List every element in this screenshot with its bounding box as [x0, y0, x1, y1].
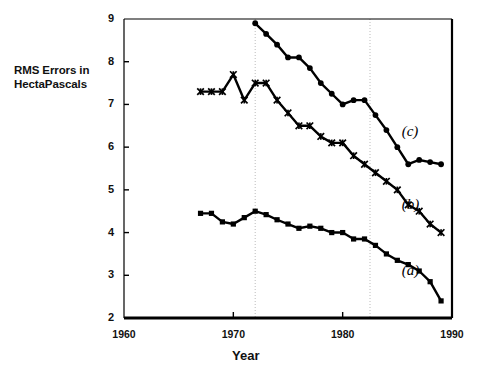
y-tick-label-3: 3 [96, 268, 114, 280]
data-point-a-1982 [362, 236, 367, 241]
y-tick-label-6: 6 [96, 140, 114, 152]
y-tick-label-8: 8 [96, 55, 114, 67]
data-point-a-1971 [242, 215, 247, 220]
curve-label-c: (c) [402, 123, 419, 140]
data-point-c-1987 [416, 157, 422, 163]
chart-figure: RMS Errors in HectaPascals Year 23456789… [0, 0, 477, 377]
data-point-a-1977 [307, 224, 312, 229]
data-point-a-1967 [198, 211, 203, 216]
data-point-a-1980 [340, 230, 345, 235]
data-point-c-1981 [351, 97, 357, 103]
curve-label-b: (b) [402, 196, 420, 213]
y-tick-label-2: 2 [96, 311, 114, 323]
data-point-c-1985 [394, 144, 400, 150]
x-tick-label-1960: 1960 [103, 328, 145, 340]
data-point-c-1983 [373, 112, 379, 118]
data-point-a-1969 [220, 219, 225, 224]
data-point-a-1983 [373, 243, 378, 248]
data-point-c-1988 [427, 159, 433, 165]
y-tick-label-9: 9 [96, 12, 114, 24]
y-tick-label-5: 5 [96, 183, 114, 195]
y-axis-label: RMS Errors in HectaPascals [14, 63, 114, 91]
data-point-a-1972 [253, 209, 258, 214]
series-line-a [201, 211, 442, 301]
data-point-c-1972 [252, 20, 258, 26]
data-point-a-1989 [438, 298, 443, 303]
y-axis-label-line2: HectaPascals [14, 78, 87, 90]
data-point-c-1976 [296, 55, 302, 61]
x-tick-label-1970: 1970 [212, 328, 254, 340]
x-tick-label-1980: 1980 [322, 328, 364, 340]
data-point-c-1980 [340, 102, 346, 108]
data-point-c-1975 [285, 55, 291, 61]
data-point-c-1977 [307, 65, 313, 71]
data-point-a-1981 [351, 236, 356, 241]
data-point-a-1976 [296, 226, 301, 231]
series-line-c [255, 23, 441, 164]
data-point-a-1988 [428, 279, 433, 284]
data-point-a-1978 [318, 226, 323, 231]
plot-area [0, 0, 477, 377]
x-axis-label: Year [232, 348, 259, 363]
data-point-a-1974 [274, 217, 279, 222]
data-point-a-1973 [264, 212, 269, 217]
data-point-c-1974 [274, 42, 280, 48]
data-point-a-1970 [231, 221, 236, 226]
data-point-a-1985 [395, 258, 400, 263]
data-point-c-1984 [384, 127, 390, 133]
data-point-a-1975 [285, 221, 290, 226]
data-point-c-1978 [318, 80, 324, 86]
data-point-a-1979 [329, 230, 334, 235]
y-tick-label-4: 4 [96, 226, 114, 238]
curve-label-a: (a) [402, 262, 420, 279]
data-point-c-1979 [329, 91, 335, 97]
data-point-a-1984 [384, 251, 389, 256]
data-point-a-1968 [209, 211, 214, 216]
data-point-c-1989 [438, 161, 444, 167]
y-tick-label-7: 7 [96, 97, 114, 109]
y-axis-label-line1: RMS Errors in [14, 64, 89, 76]
x-tick-label-1990: 1990 [431, 328, 473, 340]
data-point-c-1982 [362, 97, 368, 103]
data-point-c-1986 [405, 161, 411, 167]
data-point-c-1973 [263, 31, 269, 37]
